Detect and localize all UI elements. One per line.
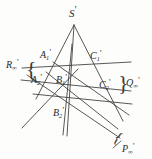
ray-s-to-c2 — [74, 25, 123, 121]
label-p-infinity: P∞' — [122, 142, 135, 156]
label-a1: A1' — [40, 48, 51, 61]
label-apex-s-base: S — [69, 7, 75, 19]
label-c1-base: C — [90, 50, 97, 61]
label-c1: C1' — [90, 49, 102, 62]
label-r-infinity-prime: ' — [17, 57, 19, 67]
label-b1-sub: 1 — [62, 79, 65, 86]
label-b2-sub: 2 — [59, 112, 62, 119]
label-a1-prime: ' — [50, 47, 52, 57]
label-b2-prime: ' — [63, 105, 65, 115]
label-apex-s-prime: ' — [75, 5, 77, 15]
label-a2-sub: 2 — [37, 79, 40, 86]
label-c2-base: C — [99, 79, 106, 90]
label-a1-sub: 1 — [46, 54, 49, 61]
label-b2: B2' — [53, 106, 64, 119]
label-c2-prime: ' — [109, 77, 111, 87]
label-r-infinity: R∞' — [6, 58, 19, 72]
label-p-infinity-prime: ' — [133, 141, 135, 151]
transversal-lower — [33, 94, 132, 104]
ray-s-to-a2 — [36, 25, 74, 99]
label-a2: A2' — [31, 73, 42, 86]
label-b1-prime: ' — [66, 72, 68, 82]
label-b1: B1' — [56, 73, 67, 86]
label-q-infinity-prime: ' — [138, 75, 140, 85]
projective-geometry-figure: { } { S' A1' C1' A2' B1' C2' B2' R∞' Q∞'… — [0, 0, 152, 159]
label-apex-s: S' — [69, 6, 76, 19]
label-c1-prime: ' — [100, 48, 102, 58]
label-c2: C2' — [99, 78, 111, 91]
label-q-infinity: Q∞' — [126, 76, 140, 90]
transversal-r-infinity — [22, 62, 131, 68]
label-a2-prime: ' — [41, 72, 43, 82]
